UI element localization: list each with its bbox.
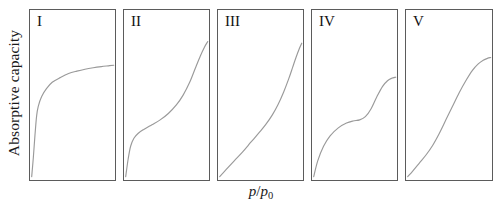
x-axis-denominator: p [260,183,268,199]
panel-type-i: I [29,9,116,181]
curve-type-ii [124,10,209,180]
y-axis-label: Absorptive capacity [0,0,28,186]
curve-type-iii [218,10,303,180]
panel-type-v: V [405,9,493,181]
panel-row: I II III IV V [29,9,493,181]
panel-type-iii: III [217,9,304,181]
panel-type-ii: II [123,9,210,181]
x-axis-label: p/p0 [29,183,493,200]
panel-type-iv: IV [311,9,398,181]
curve-type-v [406,10,492,180]
isotherm-classification-figure: Absorptive capacity I II III IV [0,0,504,211]
x-axis-subscript: 0 [268,190,273,201]
curve-type-iv [312,10,397,180]
curve-type-i [30,10,115,180]
y-axis-label-text: Absorptive capacity [5,30,23,156]
